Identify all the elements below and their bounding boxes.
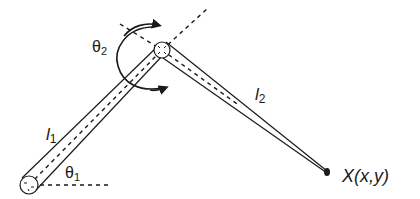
- base-joint-icon: [20, 176, 38, 194]
- link-1: [22, 46, 164, 190]
- endpoint-label: X(x,y): [341, 166, 389, 186]
- link-2-label: l2: [255, 85, 266, 106]
- link-2-centerline: [162, 50, 240, 106]
- link-1-extension-line: [162, 8, 208, 50]
- robot-arm-diagram: l1 l2 θ1 θ2 X(x,y): [0, 0, 420, 199]
- link-1-label: l1: [46, 125, 57, 146]
- diagram-svg: l1 l2 θ1 θ2 X(x,y): [0, 0, 420, 199]
- theta1-label: θ1: [65, 164, 80, 183]
- link-2: [162, 42, 327, 173]
- endpoint-dot-icon: [324, 168, 330, 176]
- elbow-joint-icon: [154, 42, 170, 58]
- link-1-centerline: [29, 52, 160, 185]
- theta2-label: θ2: [92, 38, 107, 57]
